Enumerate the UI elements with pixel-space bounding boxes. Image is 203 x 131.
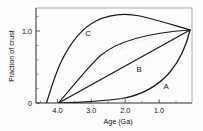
curve-label-C: C <box>85 29 91 38</box>
x-axis-title: Age (Ga) <box>103 117 132 126</box>
crustal-growth-chart: 0 1.0 4.0 3.0 2.0 1.0 Age (Ga) Fraction … <box>0 0 203 131</box>
y-axis-title: Fraction of crust <box>7 30 16 82</box>
curve-B <box>59 30 191 103</box>
chart-screenshot: 0 1.0 4.0 3.0 2.0 1.0 Age (Ga) Fraction … <box>0 0 203 131</box>
x-tick-label-3: 3.0 <box>86 106 96 115</box>
y-tick-label-1: 1.0 <box>22 27 32 36</box>
x-tick-label-2: 2.0 <box>120 106 130 115</box>
y-tick-label-0: 0 <box>28 99 32 108</box>
x-tick-label-4: 4.0 <box>52 106 62 115</box>
curve-label-B: B <box>136 65 141 74</box>
x-tick-label-1: 1.0 <box>154 106 164 115</box>
curve-label-A: A <box>163 82 169 91</box>
y-axis <box>36 8 40 103</box>
